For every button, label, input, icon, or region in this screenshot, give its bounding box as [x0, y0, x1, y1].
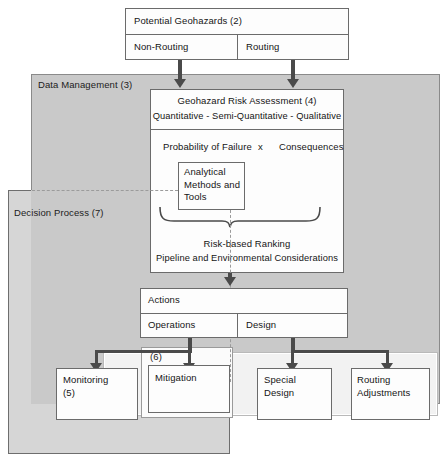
label-analytical-methods-tools: Analytical Methods and Tools — [184, 166, 240, 204]
dashed-connector-horizontal — [32, 190, 178, 191]
connector-routing-stem — [291, 60, 295, 80]
label-monitoring: Monitoring (5) — [63, 374, 108, 399]
panel-label-decision-process: Decision Process (7) — [14, 207, 104, 218]
connector-non-routing-stem — [178, 60, 182, 80]
connector-design-bar — [291, 350, 389, 353]
divider-assessment-header — [151, 129, 343, 130]
label-design: Design — [246, 319, 276, 332]
label-routing: Routing — [246, 41, 279, 54]
arrow-routing — [287, 79, 299, 88]
label-consequences: Consequences — [279, 141, 344, 154]
label-equation-operator: x — [258, 141, 263, 154]
label-potential-geohazards: Potential Geohazards (2) — [134, 15, 242, 28]
label-non-routing: Non-Routing — [134, 41, 188, 54]
label-special-design: Special Design — [264, 374, 296, 399]
label-probability-of-failure: Probability of Failure — [163, 141, 252, 154]
label-pipeline-considerations: Pipeline and Environmental Consideration… — [148, 252, 346, 265]
label-operations: Operations — [148, 319, 195, 332]
label-assessment-title: Geohazard Risk Assessment (4) — [150, 95, 344, 108]
label-mitigation: Mitigation — [155, 372, 197, 385]
label-assessment-subtitle: Quantitative - Semi-Quantitative - Quali… — [149, 110, 345, 123]
divider-geohazards-vertical — [237, 35, 238, 59]
label-risk-based-ranking: Risk-based Ranking — [150, 238, 344, 251]
arrow-non-routing — [174, 79, 186, 88]
brace-icon — [158, 205, 323, 229]
label-routing-adjustments: Routing Adjustments — [357, 374, 410, 399]
divider-actions-horizontal — [141, 313, 347, 314]
arrow-assessment-to-actions — [224, 277, 236, 286]
label-actions: Actions — [148, 294, 180, 307]
panel-label-data-management: Data Management (3) — [38, 79, 132, 90]
connector-operations-bar — [95, 350, 192, 353]
flowchart-canvas: Data Management (3) Decision Process (7)… — [0, 0, 447, 464]
divider-actions-vertical — [237, 314, 238, 337]
